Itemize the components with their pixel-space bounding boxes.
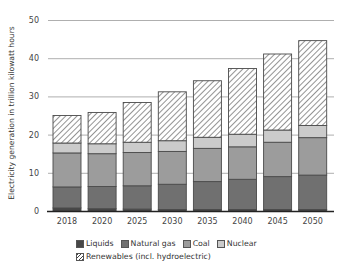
legend-item-coal: Coal [183, 238, 210, 250]
y-axis-title: Electricity generation in trillion kilow… [7, 26, 16, 199]
bar-segment-nuclear [88, 144, 116, 154]
bar-2045 [264, 54, 292, 211]
y-tick-label: 20 [29, 131, 39, 140]
x-tick-label: 2035 [197, 217, 217, 226]
stacked-bar-chart: 01020304050 2018202020252030203520402045… [0, 0, 351, 237]
bar-segment-natural-gas [193, 182, 221, 210]
legend-swatch [121, 240, 129, 248]
y-tick-label: 40 [29, 54, 39, 63]
bar-2030 [158, 92, 186, 211]
bar-segment-nuclear [264, 130, 292, 142]
bar-segment-coal [299, 138, 327, 175]
bar-segment-nuclear [193, 137, 221, 148]
bar-segment-liquids [53, 208, 81, 211]
y-axis-ticks: 01020304050 [29, 16, 39, 216]
y-tick-label: 30 [29, 92, 39, 101]
bar-segment-coal [193, 148, 221, 181]
x-tick-label: 2040 [232, 217, 252, 226]
legend-swatch [217, 240, 225, 248]
bar-segment-natural-gas [299, 175, 327, 209]
bar-2040 [229, 69, 257, 211]
bar-segment-nuclear [123, 142, 151, 152]
x-tick-label: 2030 [162, 217, 182, 226]
bar-segment-nuclear [158, 141, 186, 152]
bar-segment-renewables-incl-hydroelectric [193, 81, 221, 138]
legend-label: Nuclear [227, 238, 257, 250]
bar-segment-natural-gas [158, 184, 186, 209]
bar-segment-renewables-incl-hydroelectric [88, 112, 116, 143]
bar-segment-coal [88, 154, 116, 187]
legend-item-renewables-incl-hydroelectric: Renewables (incl. hydroelectric) [76, 251, 211, 263]
legend-label: Natural gas [131, 238, 176, 250]
legend-swatch [76, 253, 84, 261]
legend-item-liquids: Liquids [76, 238, 114, 250]
bar-segment-renewables-incl-hydroelectric [53, 116, 81, 144]
x-tick-label: 2050 [303, 217, 323, 226]
bar-segment-coal [158, 151, 186, 184]
legend-item-natural-gas: Natural gas [121, 238, 176, 250]
legend-swatch [76, 240, 84, 248]
bar-segment-coal [53, 153, 81, 187]
bar-segment-natural-gas [53, 187, 81, 208]
bar-segment-coal [123, 153, 151, 186]
bar-2025 [123, 103, 151, 211]
bar-segment-renewables-incl-hydroelectric [123, 103, 151, 143]
legend: LiquidsNatural gasCoalNuclear Renewables… [76, 237, 316, 263]
bar-segment-renewables-incl-hydroelectric [264, 54, 292, 130]
bar-segment-renewables-incl-hydroelectric [229, 69, 257, 135]
bars [53, 41, 327, 211]
y-tick-label: 10 [29, 169, 39, 178]
legend-swatch [183, 240, 191, 248]
bar-segment-coal [229, 147, 257, 179]
x-tick-label: 2045 [267, 217, 287, 226]
bar-2050 [299, 41, 327, 211]
bar-segment-nuclear [53, 143, 81, 153]
bar-2035 [193, 81, 221, 211]
bar-2018 [53, 116, 81, 212]
legend-row-2: Renewables (incl. hydroelectric) [76, 250, 316, 263]
y-tick-label: 50 [29, 16, 39, 25]
legend-label: Coal [193, 238, 210, 250]
x-tick-label: 2025 [127, 217, 147, 226]
legend-row-1: LiquidsNatural gasCoalNuclear [76, 237, 316, 250]
x-tick-label: 2020 [92, 217, 112, 226]
legend-item-nuclear: Nuclear [217, 238, 257, 250]
y-tick-label: 0 [34, 207, 39, 216]
bar-segment-renewables-incl-hydroelectric [299, 41, 327, 126]
bar-segment-natural-gas [88, 187, 116, 209]
bar-segment-natural-gas [229, 179, 257, 209]
bar-segment-nuclear [299, 125, 327, 137]
legend-label: Renewables (incl. hydroelectric) [86, 251, 211, 263]
bar-segment-natural-gas [123, 186, 151, 209]
bar-segment-nuclear [229, 134, 257, 147]
bar-2020 [88, 112, 116, 211]
legend-label: Liquids [86, 238, 114, 250]
x-tick-label: 2018 [57, 217, 77, 226]
x-axis-ticks: 20182020202520302035204020452050 [57, 217, 323, 226]
bar-segment-natural-gas [264, 177, 292, 210]
bar-segment-renewables-incl-hydroelectric [158, 92, 186, 141]
bar-segment-coal [264, 142, 292, 176]
